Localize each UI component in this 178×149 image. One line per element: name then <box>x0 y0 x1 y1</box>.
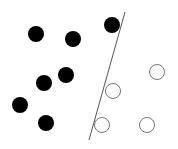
hollow-point <box>95 118 110 133</box>
filled-point <box>36 75 52 91</box>
filled-point <box>28 26 44 42</box>
filled-point <box>38 115 54 131</box>
classifier-diagram <box>0 0 178 149</box>
hollow-point <box>150 65 165 80</box>
filled-point <box>65 31 81 47</box>
filled-point <box>58 67 74 83</box>
data-points <box>12 17 165 133</box>
filled-point <box>104 17 120 33</box>
hollow-point <box>140 118 155 133</box>
hollow-point <box>106 84 121 99</box>
filled-point <box>12 97 28 113</box>
